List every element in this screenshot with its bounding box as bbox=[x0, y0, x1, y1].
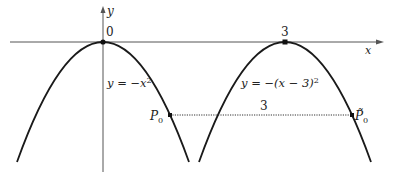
y-axis-arrowhead bbox=[101, 6, 106, 13]
x-axis-arrowhead bbox=[376, 40, 384, 45]
origin-label: 0 bbox=[106, 25, 114, 39]
parabola-translation-diagram: y x 0 3 y = −x2 y = −(x − 3)2 P0 P̃0 3 bbox=[0, 0, 397, 174]
point-p0-tilde-dot bbox=[350, 113, 354, 117]
left-parabola-label: y = −x2 bbox=[106, 76, 152, 90]
vertex-3-label: 3 bbox=[281, 25, 289, 39]
x-axis-label: x bbox=[365, 44, 372, 57]
y-axis-label: y bbox=[106, 4, 114, 18]
origin-vertex-dot bbox=[100, 39, 105, 44]
right-parabola-curve bbox=[199, 42, 371, 162]
segment-length-label: 3 bbox=[260, 99, 268, 113]
point-p0-dot bbox=[168, 113, 172, 117]
shifted-vertex-dot bbox=[283, 40, 288, 45]
point-p0-tilde-label: P̃0 bbox=[354, 108, 368, 125]
right-parabola-label: y = −(x − 3)2 bbox=[240, 76, 319, 90]
point-p0-label: P0 bbox=[149, 109, 163, 125]
